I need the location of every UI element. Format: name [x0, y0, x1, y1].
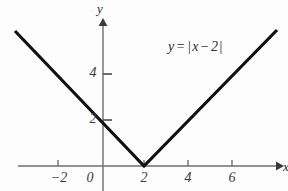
x-tick-label--2: −2 — [48, 171, 70, 185]
equation-annotation: y=|x−2| — [168, 40, 224, 54]
x-tick-label-6: 6 — [224, 171, 240, 185]
x-axis-label: x — [283, 160, 288, 173]
x-tick-label-4: 4 — [180, 171, 196, 185]
y-tick-label-2: 2 — [86, 112, 100, 126]
plot-canvas — [0, 0, 288, 191]
y-tick-label-4: 4 — [86, 66, 100, 80]
equation-close-bar: | — [218, 39, 223, 54]
equation-operator: − — [199, 39, 211, 54]
y-axis-label: y — [97, 2, 103, 15]
y-axis-arrow-icon — [99, 18, 108, 26]
x-tick-label-0: 0 — [82, 171, 98, 185]
equation-lhs: y — [168, 39, 175, 54]
x-tick-label-2: 2 — [136, 171, 152, 185]
equation-variable: x — [192, 39, 199, 54]
equation-equals: = — [175, 39, 187, 54]
abs-value-curve — [15, 30, 277, 166]
graph-figure: y x −2 0 2 4 6 2 4 y=|x−2| — [0, 0, 288, 191]
